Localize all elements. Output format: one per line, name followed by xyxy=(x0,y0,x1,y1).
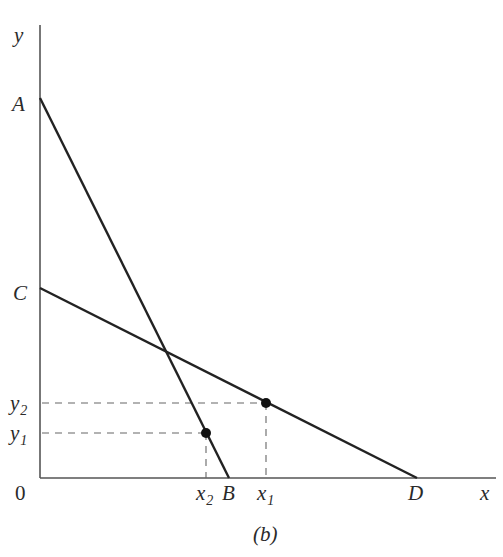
label-c: C xyxy=(13,281,28,305)
figure-caption: (b) xyxy=(253,522,278,546)
x-axis-label: x xyxy=(479,481,490,505)
label-b: B xyxy=(222,481,235,505)
label-y2: y2 xyxy=(8,391,27,418)
label-x1: x1 xyxy=(256,481,274,508)
point-x1-y2 xyxy=(261,398,271,408)
dashed-guides xyxy=(42,403,266,478)
label-a: A xyxy=(10,92,25,116)
line-cd xyxy=(40,288,417,478)
y-axis-label: y xyxy=(12,23,24,47)
label-y1: y1 xyxy=(8,421,27,448)
label-x2: x2 xyxy=(195,481,213,508)
diagram-canvas: y x 0 A B C D y2 y1 x2 x1 (b) xyxy=(0,0,503,557)
origin-label: 0 xyxy=(15,481,26,505)
point-x2-y1 xyxy=(201,428,211,438)
label-d: D xyxy=(407,481,423,505)
line-ab xyxy=(40,98,229,478)
